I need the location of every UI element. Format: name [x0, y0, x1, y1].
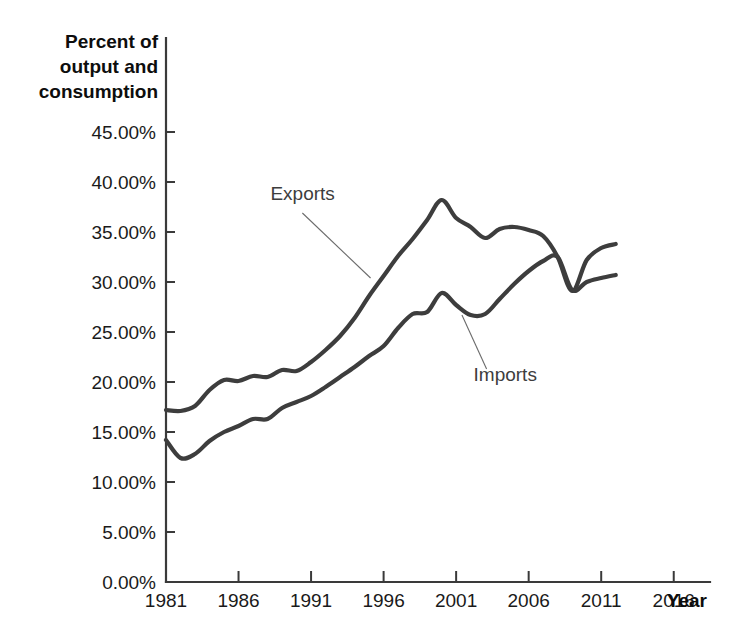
- y-axis-title-line: consumption: [39, 81, 158, 102]
- annotation-label-exports: Exports: [270, 183, 334, 204]
- y-tick-label: 5.00%: [102, 522, 156, 543]
- y-axis-title: Percent ofoutput andconsumption: [39, 31, 159, 102]
- y-axis-ticks: 0.00%5.00%10.00%15.00%20.00%25.00%30.00%…: [92, 122, 175, 593]
- y-tick-label: 30.00%: [92, 272, 157, 293]
- y-tick-label: 35.00%: [92, 222, 157, 243]
- series-annotations: ExportsImports: [270, 183, 536, 385]
- x-tick-label: 1996: [362, 590, 404, 611]
- y-tick-label: 10.00%: [92, 472, 157, 493]
- x-tick-label: 2001: [435, 590, 477, 611]
- series-line-exports: [166, 200, 616, 411]
- x-tick-label: 2006: [508, 590, 550, 611]
- y-tick-label: 45.00%: [92, 122, 157, 143]
- x-tick-label: 1991: [290, 590, 332, 611]
- annotation-leader-line: [462, 315, 487, 369]
- y-axis-title-line: Percent of: [65, 31, 159, 52]
- x-tick-label: 2011: [581, 590, 622, 611]
- y-tick-label: 40.00%: [92, 172, 157, 193]
- series-line-imports: [166, 255, 616, 459]
- series-lines: [166, 200, 616, 459]
- x-tick-label: 1981: [145, 590, 187, 611]
- annotation-leader-line: [302, 213, 370, 278]
- line-chart-figure: Percent ofoutput andconsumption 0.00%5.0…: [0, 0, 750, 629]
- y-tick-label: 20.00%: [92, 372, 157, 393]
- x-axis-title: Year: [667, 590, 708, 611]
- x-axis-ticks: 19811986199119962001200620112016: [145, 571, 695, 611]
- y-tick-label: 25.00%: [92, 322, 157, 343]
- x-tick-label: 1986: [217, 590, 259, 611]
- chart-container: Percent ofoutput andconsumption 0.00%5.0…: [0, 0, 750, 629]
- y-axis-title-line: output and: [60, 56, 158, 77]
- annotation-label-imports: Imports: [474, 364, 537, 385]
- y-tick-label: 15.00%: [92, 422, 157, 443]
